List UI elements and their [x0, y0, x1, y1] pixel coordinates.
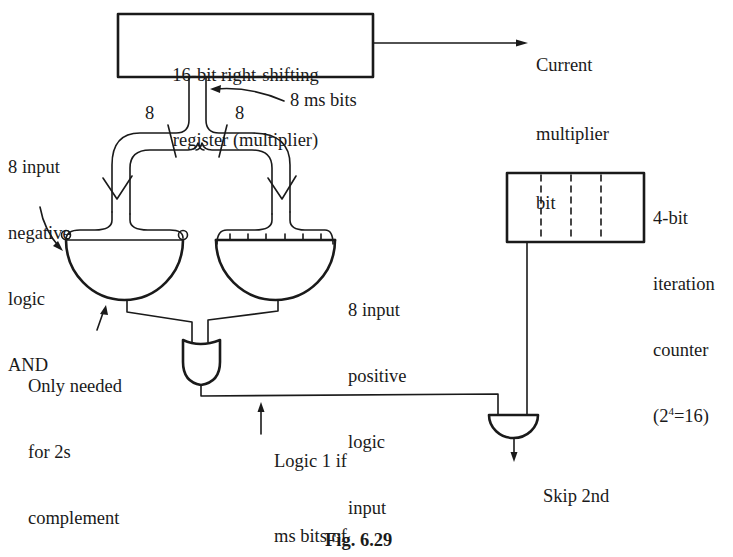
counter-formula-result: =16): [674, 406, 709, 426]
counter-label: 4-bit iteration counter (24=16): [653, 163, 715, 449]
twos-complement-note: Only needed for 2s complement arithmetic: [28, 331, 122, 557]
register-label-line1: 16-bit right-shifting: [118, 65, 373, 87]
wire-neg-to-or: [127, 300, 192, 342]
counter-line2: iteration: [653, 273, 715, 295]
figure-caption: Fig. 6.29: [325, 530, 392, 552]
negative-and-line1: 8 input: [8, 156, 71, 178]
skip-output-arrow: [511, 438, 518, 462]
positive-and-gate: [216, 212, 335, 300]
skip-line1: Skip 2nd: [543, 484, 616, 508]
skip-label: Skip 2nd byte of multiplier: [543, 436, 616, 557]
or-gate: [183, 340, 220, 385]
negative-and-line2: negative: [8, 222, 71, 244]
current-bit-line1: Current: [536, 54, 609, 77]
twos-note-line1: Only needed: [28, 375, 122, 397]
logic-note-line1: Logic 1 if: [274, 449, 408, 474]
negative-and-gate: [62, 212, 188, 300]
negative-and-line3: logic: [8, 288, 71, 310]
register-label-line2: register (multiplier): [118, 130, 373, 152]
ms-bits-label: 8 ms bits: [290, 90, 357, 112]
current-bit-line3: bit: [536, 192, 609, 215]
twos-note-line2: for 2s: [28, 441, 122, 463]
current-bit-label: Current multiplier bit: [536, 8, 609, 238]
counter-line3: counter: [653, 339, 715, 361]
skip-and-gate: [489, 415, 538, 438]
wire-pos-to-or: [208, 300, 278, 342]
counter-formula-base: (2: [653, 406, 668, 426]
positive-and-line1: 8 input: [348, 299, 407, 321]
current-bit-line2: multiplier: [536, 123, 609, 146]
current-bit-arrow: [373, 40, 528, 47]
counter-line1: 4-bit: [653, 207, 715, 229]
twos-note-line3: complement: [28, 507, 122, 529]
logic-note-arrow: [258, 402, 265, 434]
counter-line4: (24=16): [653, 405, 715, 427]
bus-width-right: 8: [235, 103, 244, 125]
positive-and-line2: positive: [348, 365, 407, 387]
bus-width-left: 8: [145, 103, 154, 125]
